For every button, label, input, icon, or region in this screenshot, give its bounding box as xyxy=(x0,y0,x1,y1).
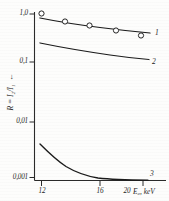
curve-label-3: 3 xyxy=(150,170,154,178)
y-tick-label-001: 0,01 xyxy=(2,118,28,125)
curve-1-marker xyxy=(87,23,92,28)
y-tick-label-0001: 0,001 xyxy=(0,174,28,181)
x-tick-label-16: 16 xyxy=(92,188,108,195)
plot-canvas xyxy=(0,0,169,201)
curve-1-marker xyxy=(62,19,67,24)
chart-figure: 1,0 0,1 0,01 0,001 12 16 20 E₀, keV R = … xyxy=(0,0,169,201)
y-axis-title-text: R = I₂/I₁ xyxy=(6,85,15,111)
y-axis-title: R = I₂/I₁ ← xyxy=(7,59,15,125)
y-tick-label-1: 1,0 xyxy=(6,10,28,17)
curve-1-marker xyxy=(138,33,143,38)
x-axis-title: E₀, keV xyxy=(133,188,155,195)
curve-label-1: 1 xyxy=(155,29,159,37)
curve-2-line xyxy=(40,43,149,60)
y-axis-arrow-icon: ← xyxy=(6,73,15,81)
curve-1-marker xyxy=(113,28,118,33)
x-tick-label-12: 12 xyxy=(34,188,50,195)
curve-1-marker xyxy=(39,11,44,16)
curve-1-line xyxy=(40,18,150,33)
curve-3-line xyxy=(40,144,148,180)
curve-label-2: 2 xyxy=(152,58,156,66)
